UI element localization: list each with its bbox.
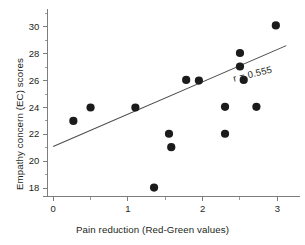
data-points-group <box>69 21 280 191</box>
data-point <box>165 130 173 138</box>
data-point <box>221 130 229 138</box>
data-point <box>182 76 190 84</box>
x-tick-label: 0 <box>41 204 65 214</box>
y-axis-title: Empathy concern (EC) scores <box>14 58 25 190</box>
data-point <box>252 103 260 111</box>
x-tick-label: 1 <box>116 204 140 214</box>
data-point <box>69 117 77 125</box>
y-tick-label: 28 <box>11 49 39 59</box>
data-point <box>150 183 158 191</box>
y-tick-label: 30 <box>11 22 39 32</box>
data-point <box>272 21 280 29</box>
data-point <box>167 143 175 151</box>
data-point <box>221 103 229 111</box>
data-point <box>131 103 139 111</box>
axes-group <box>43 9 300 201</box>
scatter-plot-figure: 18202224262830 0123 Empathy concern (EC)… <box>0 0 305 245</box>
data-point <box>195 76 203 84</box>
data-point <box>236 49 244 57</box>
x-tick-label: 3 <box>265 204 289 214</box>
x-axis-title: Pain reduction (Red-Green values) <box>0 224 305 235</box>
data-point <box>86 103 94 111</box>
x-tick-label: 2 <box>191 204 215 214</box>
